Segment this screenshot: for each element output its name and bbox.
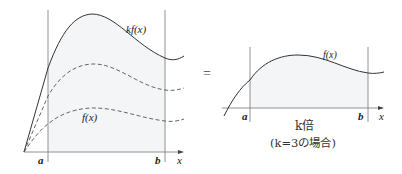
- label-a-right: a: [242, 111, 248, 122]
- label-b-left: b: [155, 155, 161, 166]
- diagram-canvas: [0, 0, 402, 174]
- label-fx-left: f(x): [82, 112, 97, 123]
- caption-k-equals-3: (k=3の場合): [270, 134, 336, 150]
- left-shaded-area: [48, 14, 165, 152]
- label-x-left: x: [177, 155, 182, 166]
- equals-sign: =: [203, 66, 211, 82]
- caption-k-times: k倍: [295, 116, 314, 133]
- label-fx-right: f(x): [323, 50, 337, 60]
- label-x-right: x: [379, 111, 384, 122]
- label-a-left: a: [38, 155, 44, 166]
- label-kfx: kf(x): [126, 24, 146, 35]
- label-b-right: b: [358, 111, 364, 122]
